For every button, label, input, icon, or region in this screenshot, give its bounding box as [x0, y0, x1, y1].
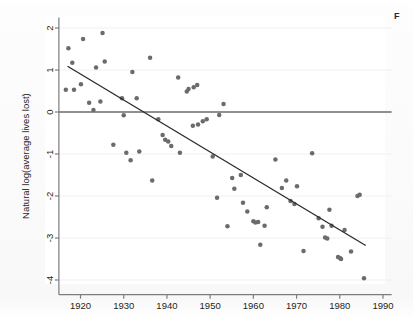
data-point — [100, 31, 105, 36]
figure-container: 19201930194019501960197019801990 210-1-2… — [0, 0, 413, 318]
data-point — [201, 119, 206, 124]
data-point — [195, 83, 200, 88]
x-tick-label-1970: 1970 — [286, 300, 307, 311]
data-point — [176, 75, 181, 80]
data-point — [98, 99, 103, 104]
data-point — [121, 113, 126, 118]
data-point — [349, 249, 354, 254]
y-tick-label--3: -3 — [44, 234, 55, 242]
data-point — [81, 37, 86, 42]
data-point — [204, 117, 209, 122]
data-point — [325, 236, 330, 241]
data-point — [191, 124, 196, 129]
data-point — [310, 151, 315, 156]
y-tick-label-0: 0 — [44, 109, 55, 114]
y-tick-label--1: -1 — [44, 150, 55, 158]
data-point — [137, 149, 142, 154]
x-tick-label-1980: 1980 — [329, 300, 350, 311]
figure-caption-fragment: F — [394, 11, 413, 21]
x-tick-label-1950: 1950 — [200, 300, 221, 311]
data-point — [72, 87, 77, 92]
x-tick-label-1960: 1960 — [243, 300, 264, 311]
data-point — [160, 133, 165, 138]
data-point — [258, 242, 263, 247]
data-point — [339, 257, 344, 262]
y-tick-label-2: 2 — [44, 25, 55, 30]
x-tick-label-1940: 1940 — [156, 300, 177, 311]
data-point — [66, 46, 71, 51]
plot-background — [45, 16, 385, 284]
data-point — [265, 205, 270, 210]
data-point — [178, 150, 183, 155]
data-point — [87, 101, 92, 106]
data-point — [215, 195, 220, 200]
data-point — [280, 186, 285, 191]
data-point — [225, 224, 230, 229]
data-point — [357, 192, 362, 197]
data-point — [241, 200, 246, 205]
y-tick-label--2: -2 — [44, 192, 55, 200]
y-axis-title-text: Natural log(average lives lost) — [21, 93, 32, 219]
data-point — [169, 144, 174, 149]
x-tick-label-1920: 1920 — [70, 300, 91, 311]
data-point — [148, 56, 153, 61]
data-point — [284, 178, 289, 183]
data-point — [130, 70, 135, 75]
data-point — [79, 82, 84, 87]
data-point — [94, 65, 99, 70]
data-point — [124, 150, 129, 155]
data-point — [301, 249, 306, 254]
x-axis-tick-labels: 19201930194019501960197019801990 — [70, 300, 394, 311]
data-point — [128, 158, 133, 163]
data-point — [196, 122, 201, 127]
data-point — [262, 224, 267, 229]
data-point — [327, 208, 332, 213]
x-tick-label-1930: 1930 — [113, 300, 134, 311]
data-point — [166, 139, 171, 144]
y-tick-label--4: -4 — [44, 276, 55, 284]
data-point — [232, 187, 237, 192]
data-point — [102, 59, 107, 64]
data-point — [150, 178, 155, 183]
x-tick-label-1990: 1990 — [372, 300, 393, 311]
data-point — [70, 61, 75, 66]
scatter-plot-chart: 19201930194019501960197019801990 210-1-2… — [0, 0, 413, 318]
y-tick-label-1: 1 — [44, 67, 55, 72]
data-point — [295, 184, 300, 189]
data-point — [186, 87, 191, 92]
data-point — [256, 220, 261, 225]
data-point — [64, 87, 69, 92]
data-point — [239, 173, 244, 178]
y-axis-title: Natural log(average lives lost) — [21, 93, 32, 219]
data-point — [320, 224, 325, 229]
data-point — [111, 143, 116, 148]
data-point — [91, 108, 96, 113]
data-point — [230, 176, 235, 181]
data-point — [134, 96, 139, 101]
data-point — [245, 209, 250, 214]
data-point — [273, 157, 278, 162]
data-point — [221, 102, 226, 107]
data-point — [217, 113, 222, 118]
data-point — [362, 276, 367, 281]
